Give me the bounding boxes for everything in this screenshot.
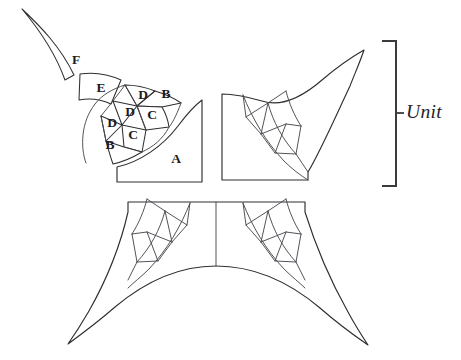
- unit-bracket-group: [382, 41, 404, 186]
- assembly-bottom: [68, 199, 368, 345]
- assembly-top-right-outline: [222, 50, 364, 180]
- piece-label-B2: B: [161, 86, 170, 101]
- piece-label-F: F: [72, 52, 80, 67]
- piece-label-B1: B: [105, 137, 114, 152]
- piece-label-D2: D: [125, 104, 135, 119]
- piece-label-E: E: [96, 80, 105, 95]
- figure-canvas: A B C D D C D B E F: [0, 0, 461, 360]
- cut-tr-ray-7: [268, 91, 286, 103]
- piece-F: [22, 9, 74, 80]
- unit-label: Unit: [406, 101, 442, 123]
- piece-label-C1: C: [128, 127, 138, 142]
- assembly-bottom-outline: [68, 202, 368, 345]
- cut-cluster-link-1: [101, 101, 113, 116]
- dissection-figure: A B C D D C D B E F Unit: [0, 0, 461, 360]
- piece-label-D3: D: [138, 87, 148, 102]
- piece-label-C2: C: [147, 107, 157, 122]
- piece-label-D1: D: [107, 115, 117, 130]
- unit-bracket: [382, 41, 396, 186]
- piece-label-A: A: [171, 151, 181, 166]
- assembly-top-right: [222, 50, 364, 180]
